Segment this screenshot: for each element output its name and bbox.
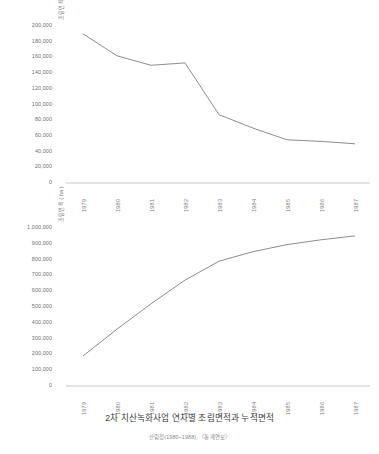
y-tick-label: 0 bbox=[0, 383, 52, 388]
y-tick-label: 120,000 bbox=[0, 86, 52, 91]
y-tick-label: 200,000 bbox=[0, 351, 52, 356]
figure-caption-source: 산림청(1980~1988), 〈통계연보〉 bbox=[0, 433, 379, 441]
y-axis-title-cumulative: 조림면적 ( ha ) bbox=[57, 186, 64, 222]
data-line-cumulative bbox=[83, 236, 355, 356]
chart-cumulative-afforestation: 0100,000200,000300,000400,000500,000600,… bbox=[0, 200, 379, 405]
y-tick-label: 180,000 bbox=[0, 39, 52, 44]
y-tick-label: 100,000 bbox=[0, 367, 52, 372]
y-tick-label: 140,000 bbox=[0, 70, 52, 75]
figure-root: 020,00040,00060,00080,000100,000120,0001… bbox=[0, 0, 379, 454]
chart-annual-afforestation: 020,00040,00060,00080,000100,000120,0001… bbox=[0, 0, 379, 215]
y-tick-label: 160,000 bbox=[0, 54, 52, 59]
y-tick-label: 60,000 bbox=[0, 133, 52, 138]
figure-caption-title: 2차 치산녹화사업 연차별 조림면적과 누적면적 bbox=[0, 411, 379, 423]
y-tick-label: 600,000 bbox=[0, 288, 52, 293]
y-tick-label: 0 bbox=[0, 180, 52, 185]
y-tick-label: 1,000,000 bbox=[0, 225, 52, 230]
chart-annual-plot-area bbox=[0, 0, 379, 215]
y-tick-label: 700,000 bbox=[0, 272, 52, 277]
y-tick-label: 100,000 bbox=[0, 102, 52, 107]
y-tick-label: 20,000 bbox=[0, 164, 52, 169]
chart-cumulative-plot-area bbox=[0, 200, 379, 405]
y-tick-label: 300,000 bbox=[0, 336, 52, 341]
y-tick-label: 400,000 bbox=[0, 320, 52, 325]
y-axis-title-annual: 조림면적 ( ha ) bbox=[57, 0, 64, 20]
y-tick-label: 500,000 bbox=[0, 304, 52, 309]
y-tick-label: 900,000 bbox=[0, 241, 52, 246]
y-tick-label: 800,000 bbox=[0, 257, 52, 262]
y-tick-label: 80,000 bbox=[0, 117, 52, 122]
y-tick-label: 200,000 bbox=[0, 23, 52, 28]
y-tick-label: 40,000 bbox=[0, 149, 52, 154]
data-line-annual bbox=[83, 34, 355, 144]
